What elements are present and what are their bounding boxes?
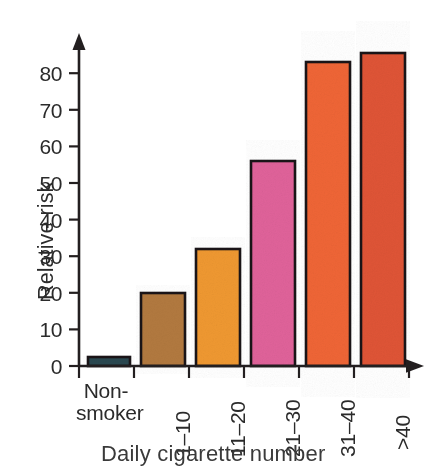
bar-non-smoker [88, 357, 130, 366]
bar-11-20 [196, 249, 240, 366]
x-axis-title: Daily cigarette number [101, 441, 326, 467]
bar-chart-svg: 0 10 20 30 40 50 60 70 80 [0, 0, 438, 475]
y-axis-arrow [73, 33, 86, 50]
chart-figure: 0 10 20 30 40 50 60 70 80 Relative risk … [0, 0, 438, 475]
x-tick-label-non-smoker-line2: smoker [76, 402, 136, 424]
y-tick-10: 10 [39, 318, 62, 341]
bar-1-10 [141, 293, 185, 366]
y-tick-0: 0 [51, 355, 62, 378]
bars-group [88, 53, 405, 366]
x-tick-label-31-40: 31–40 [337, 400, 359, 457]
y-axis-title: Relative risk [34, 182, 59, 300]
y-tick-80: 80 [39, 62, 62, 85]
bar-21-30 [251, 161, 295, 366]
bar-over-40 [361, 53, 405, 366]
x-tick-label-over-40: >40 [392, 415, 414, 450]
y-tick-60: 60 [39, 135, 62, 158]
x-tick-label-non-smoker-line1: Non- [76, 380, 136, 402]
x-tick-label-non-smoker: Non- smoker [76, 380, 136, 425]
bar-31-40 [306, 62, 350, 366]
y-axis [69, 33, 86, 366]
y-tick-70: 70 [39, 99, 62, 122]
